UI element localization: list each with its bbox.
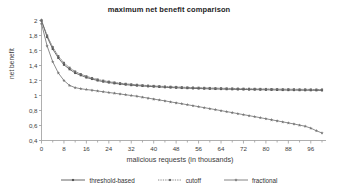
- y-axis-title: net benefit: [8, 34, 15, 94]
- data-point-marker: [74, 70, 76, 72]
- x-tick-label: 32: [120, 145, 142, 152]
- data-point-marker: [270, 118, 273, 121]
- x-tick-label: 96: [300, 145, 322, 152]
- data-point-marker: [125, 83, 127, 85]
- legend-swatch-square-icon: [157, 176, 183, 184]
- data-point-marker: [253, 115, 256, 118]
- x-tick-label: 24: [98, 145, 120, 152]
- data-point-marker: [130, 83, 132, 85]
- axes-layer: [39, 19, 326, 144]
- y-tick-label: 2: [8, 17, 38, 24]
- x-tick-label: 64: [210, 145, 232, 152]
- legend-label: threshold-based: [89, 177, 134, 184]
- data-point-marker: [198, 87, 200, 89]
- legend-entry-threshold-based[interactable]: threshold-based: [60, 176, 134, 184]
- data-point-marker: [147, 85, 149, 87]
- data-point-marker: [97, 78, 99, 80]
- data-point-marker: [141, 84, 143, 86]
- data-point-marker: [73, 86, 76, 89]
- data-point-marker: [242, 88, 244, 90]
- x-axis-title: malicious requests (in thousands): [30, 155, 330, 164]
- x-tick-label: 16: [75, 145, 97, 152]
- x-tick-label: 40: [143, 145, 165, 152]
- data-point-marker: [293, 88, 295, 90]
- data-point-marker: [52, 46, 54, 48]
- plot-area: [0, 0, 338, 196]
- data-point-marker: [276, 88, 278, 90]
- data-point-marker: [141, 96, 144, 99]
- data-point-marker: [214, 87, 216, 89]
- data-point-marker: [113, 92, 116, 95]
- data-point-marker: [181, 86, 183, 88]
- data-point-marker: [191, 104, 194, 107]
- data-point-marker: [51, 60, 54, 63]
- x-tick-label: 48: [165, 145, 187, 152]
- data-point-marker: [192, 87, 194, 89]
- data-point-marker: [304, 88, 306, 90]
- x-tick-label: 80: [255, 145, 277, 152]
- x-tick-label: 56: [188, 145, 210, 152]
- data-point-marker: [79, 87, 82, 90]
- data-point-marker: [186, 86, 188, 88]
- data-point-marker: [264, 117, 267, 120]
- data-point-marker: [85, 88, 88, 91]
- data-point-marker: [254, 88, 256, 90]
- data-point-marker: [309, 126, 312, 129]
- data-point-marker: [119, 82, 121, 84]
- series-fractional: [40, 22, 324, 135]
- series-layer: [40, 19, 324, 134]
- data-point-marker: [219, 109, 222, 112]
- data-point-marker: [102, 80, 104, 82]
- data-point-marker: [242, 113, 245, 116]
- data-point-marker: [270, 88, 272, 90]
- data-point-marker: [153, 85, 155, 87]
- data-point-marker: [202, 106, 205, 109]
- data-point-marker: [315, 88, 317, 90]
- data-point-marker: [180, 102, 183, 105]
- data-point-marker: [90, 89, 93, 92]
- data-point-marker: [287, 121, 290, 124]
- data-point-marker: [292, 122, 295, 125]
- data-point-marker: [231, 87, 233, 89]
- data-point-marker: [186, 103, 189, 106]
- data-point-marker: [197, 105, 200, 108]
- data-point-marker: [136, 84, 138, 86]
- data-point-marker: [174, 101, 177, 104]
- data-point-marker: [107, 91, 110, 94]
- data-point-marker: [220, 87, 222, 89]
- data-point-marker: [158, 98, 161, 101]
- data-point-marker: [275, 119, 278, 122]
- data-point-marker: [298, 123, 301, 126]
- series-threshold-based: [40, 19, 323, 91]
- data-point-marker: [164, 85, 166, 87]
- legend-label: cutoff: [186, 177, 201, 184]
- data-point-marker: [69, 67, 71, 69]
- data-point-marker: [113, 81, 115, 83]
- series-cutoff: [40, 19, 323, 90]
- data-point-marker: [321, 88, 323, 90]
- data-point-marker: [282, 88, 284, 90]
- legend-entry-cutoff[interactable]: cutoff: [157, 176, 201, 184]
- data-point-marker: [46, 34, 48, 36]
- chart-figure: maximum net benefit comparison 0,40,60,8…: [0, 0, 338, 196]
- data-point-marker: [299, 88, 301, 90]
- data-point-marker: [315, 129, 318, 132]
- data-point-marker: [259, 88, 261, 90]
- legend-entry-fractional[interactable]: fractional: [223, 176, 278, 184]
- y-tick-label: 0,8: [8, 107, 38, 114]
- x-tick-label: 72: [232, 145, 254, 152]
- data-point-marker: [118, 92, 121, 95]
- data-point-marker: [91, 77, 93, 79]
- x-tick-label: 0: [31, 145, 53, 152]
- y-tick-label: 0,4: [8, 137, 38, 144]
- data-point-marker: [175, 86, 177, 88]
- data-point-marker: [265, 88, 267, 90]
- data-point-marker: [80, 73, 82, 75]
- data-point-marker: [135, 95, 138, 98]
- data-point-marker: [259, 116, 262, 119]
- legend-swatch-star-icon: [223, 176, 249, 184]
- data-point-marker: [169, 86, 171, 88]
- series-line: [42, 24, 323, 134]
- data-point-marker: [85, 75, 87, 77]
- data-point-marker: [208, 107, 211, 110]
